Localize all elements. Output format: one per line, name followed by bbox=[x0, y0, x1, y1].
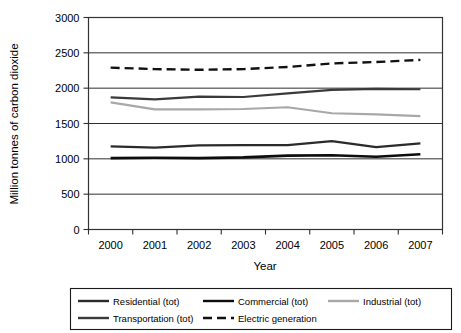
y-axis-tick-label: 1000 bbox=[55, 153, 79, 165]
x-axis-tick-label: 2001 bbox=[143, 239, 167, 251]
x-axis-tick-label: 2002 bbox=[187, 239, 211, 251]
y-axis-tick-label: 500 bbox=[61, 188, 79, 200]
legend-label: Industrial (tot) bbox=[363, 296, 421, 307]
chart-figure: Million tonnes of carbon dioxide 0500100… bbox=[0, 0, 461, 333]
legend: Residential (tot)Commercial (tot)Industr… bbox=[71, 289, 452, 330]
y-axis-tick-label: 1500 bbox=[55, 118, 79, 130]
x-axis-tick-label: 2003 bbox=[231, 239, 255, 251]
y-axis-tick-label: 0 bbox=[73, 224, 79, 236]
x-axis-tick-label: 2004 bbox=[275, 239, 299, 251]
y-axis-tick-label: 3000 bbox=[55, 12, 79, 24]
x-axis-title: Year bbox=[253, 260, 276, 272]
legend-label: Electric generation bbox=[238, 313, 317, 324]
legend-label: Transportation (tot) bbox=[113, 313, 193, 324]
x-axis-tick-label: 2007 bbox=[408, 239, 432, 251]
line-chart: Million tonnes of carbon dioxide 0500100… bbox=[0, 0, 461, 333]
y-axis-tick-label: 2000 bbox=[55, 82, 79, 94]
legend-label: Residential (tot) bbox=[113, 296, 180, 307]
x-axis-tick-label: 2000 bbox=[98, 239, 122, 251]
legend-label: Commercial (tot) bbox=[238, 296, 308, 307]
x-axis-tick-label: 2005 bbox=[320, 239, 344, 251]
y-axis-tick-label: 2500 bbox=[55, 47, 79, 59]
y-axis-title: Million tonnes of carbon dioxide bbox=[8, 43, 20, 204]
x-axis-tick-label: 2006 bbox=[364, 239, 388, 251]
